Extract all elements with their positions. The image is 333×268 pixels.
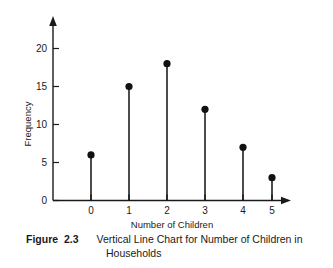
data-point-0: [87, 151, 94, 200]
x-axis-ticks: [91, 195, 272, 201]
marker-dot-1: [125, 83, 132, 90]
caption-line-1: Figure 2.3 Vertical Line Chart for Numbe…: [26, 233, 326, 246]
caption-text-line-1: Vertical Line Chart for Number of Childr…: [97, 233, 326, 246]
caption-text-line-2: Households: [106, 247, 326, 260]
x-axis-arrow-icon: [281, 197, 291, 205]
y-tick-label-0: 0: [41, 195, 47, 206]
data-series-frequency: [87, 60, 275, 200]
data-point-3: [201, 106, 208, 201]
y-axis-ticks: [53, 49, 59, 201]
x-tick-label-3: 3: [202, 205, 208, 216]
x-tick-label-0: 0: [88, 205, 94, 216]
vertical-line-chart: 0 5 10 15 20 0 1 2 3 4 5: [0, 0, 333, 232]
marker-dot-2: [163, 60, 170, 67]
x-tick-label-5: 5: [269, 205, 275, 216]
figure-container: 0 5 10 15 20 0 1 2 3 4 5: [0, 0, 333, 268]
marker-dot-4: [239, 144, 246, 151]
y-tick-label-15: 15: [36, 81, 48, 92]
data-point-4: [239, 144, 246, 201]
figure-number-label: Figure 2.3: [26, 233, 79, 246]
figure-caption: Figure 2.3 Vertical Line Chart for Numbe…: [26, 233, 326, 260]
data-point-1: [125, 83, 132, 201]
data-point-5: [268, 174, 275, 200]
marker-dot-5: [268, 174, 275, 181]
x-tick-label-4: 4: [240, 205, 246, 216]
marker-dot-0: [87, 151, 94, 158]
y-axis-title: Frequency: [22, 101, 33, 146]
y-tick-label-5: 5: [41, 157, 47, 168]
x-axis-tick-labels: 0 1 2 3 4 5: [88, 205, 275, 216]
marker-dot-3: [201, 106, 208, 113]
y-tick-label-10: 10: [36, 119, 48, 130]
data-point-2: [163, 60, 170, 200]
y-axis-arrow-icon: [49, 16, 57, 26]
x-tick-label-1: 1: [126, 205, 132, 216]
x-axis-title: Number of Children: [131, 219, 213, 230]
x-tick-label-2: 2: [164, 205, 170, 216]
y-tick-label-20: 20: [36, 43, 48, 54]
y-axis-tick-labels: 0 5 10 15 20: [36, 43, 48, 206]
